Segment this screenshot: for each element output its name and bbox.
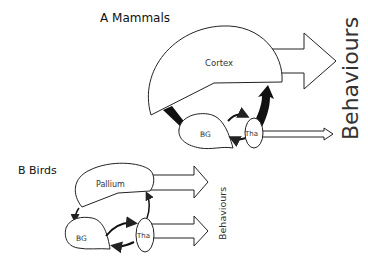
bg-label-birds: BG	[76, 234, 87, 243]
pallium-output-arrow	[150, 166, 208, 198]
bg-shape-birds	[65, 217, 110, 249]
tha-output-arrow-birds	[150, 216, 208, 246]
tha-to-pallium-arrow	[147, 194, 149, 218]
cortex-label: Cortex	[205, 58, 233, 68]
tha-label-birds: Tha	[136, 232, 150, 240]
panel-birds: B Birds Pallium BG Tha Behaviours	[18, 163, 228, 252]
panel-mammals: A Mammals Cortex BG Tha Behaviours	[100, 11, 363, 149]
bg-to-tha-arrow-birds	[106, 223, 134, 236]
pallium-label: Pallium	[96, 180, 125, 189]
panel-title-birds: B Birds	[18, 164, 57, 177]
bg-to-tha-arrow	[228, 114, 246, 121]
panel-title-mammals: A Mammals	[100, 11, 170, 25]
tha-to-bg-arrow-birds	[114, 242, 134, 246]
tha-output-arrow	[262, 128, 333, 140]
behaviours-label-mammals: Behaviours	[338, 17, 363, 140]
tha-label-mammals: Tha	[244, 130, 258, 138]
tha-to-bg-arrow	[232, 138, 246, 140]
diagram-canvas: A Mammals Cortex BG Tha Behaviours B Bir…	[0, 0, 368, 271]
behaviours-label-birds: Behaviours	[217, 187, 228, 240]
bg-label-mammals: BG	[200, 130, 211, 139]
